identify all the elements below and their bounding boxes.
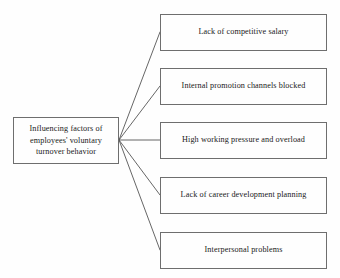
factor-node-high-working-pressure-and-overload: High working pressure and overload — [160, 122, 327, 159]
connector-line-1 — [119, 86, 160, 140]
factor-node-lack-of-career-development-planning: Lack of career development planning — [160, 177, 327, 214]
factor-node-interpersonal-problems: Interpersonal problems — [160, 232, 327, 269]
factor-node-lack-of-competitive-salary: Lack of competitive salary — [160, 14, 327, 51]
factor-node-label: High working pressure and overload — [161, 135, 326, 146]
factor-node-label: Interpersonal problems — [161, 245, 326, 256]
connector-line-0 — [119, 32, 160, 140]
connector-line-4 — [119, 140, 160, 250]
factor-node-internal-promotion-channels-blocked: Internal promotion channels blocked — [160, 68, 327, 105]
factor-node-label: Lack of competitive salary — [161, 27, 326, 38]
connector-line-3 — [119, 140, 160, 195]
root-node-influencing-factors: Influencing factors of employees' volunt… — [13, 117, 119, 164]
factor-node-label: Lack of career development planning — [161, 190, 326, 201]
factor-node-label: Internal promotion channels blocked — [161, 81, 326, 92]
root-node-label: Influencing factors of employees' volunt… — [14, 123, 118, 158]
diagram-canvas: Influencing factors of employees' volunt… — [0, 0, 340, 278]
